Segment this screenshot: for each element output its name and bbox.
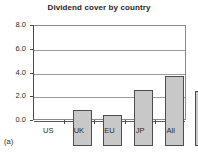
x-tick-label-eu: EU bbox=[94, 126, 125, 135]
plot-area bbox=[33, 25, 186, 120]
y-tick-mark-0.0 bbox=[30, 120, 33, 121]
y-tick-label-6.0: 6.0 bbox=[4, 45, 26, 53]
x-tick-label-all: All bbox=[155, 126, 186, 135]
x-tick-label-jp: JP bbox=[125, 126, 156, 135]
y-tick-mark-4.0 bbox=[30, 73, 33, 74]
y-tick-label-4.0: 4.0 bbox=[4, 69, 26, 77]
x-tick-mark-2 bbox=[94, 120, 95, 124]
y-tick-label-2.0: 2.0 bbox=[4, 92, 26, 100]
bar-jp bbox=[165, 76, 184, 146]
y-tick-mark-8.0 bbox=[30, 25, 33, 26]
bar-eu bbox=[134, 90, 153, 146]
y-tick-label-8.0: 8.0 bbox=[4, 21, 26, 29]
y-tick-mark-2.0 bbox=[30, 96, 33, 97]
x-tick-label-uk: UK bbox=[64, 126, 95, 135]
chart-title: Dividend cover by country bbox=[0, 3, 198, 13]
x-tick-label-us: US bbox=[33, 126, 64, 135]
bar-all bbox=[195, 91, 198, 146]
x-tick-mark-4 bbox=[155, 120, 156, 124]
figure-panel: Dividend cover by country 0.02.04.06.08.… bbox=[0, 0, 198, 155]
y-axis-line bbox=[33, 25, 34, 120]
y-tick-label-0.0: 0.0 bbox=[4, 116, 26, 124]
x-tick-mark-3 bbox=[125, 120, 126, 124]
y-tick-mark-6.0 bbox=[30, 49, 33, 50]
x-tick-mark-1 bbox=[64, 120, 65, 124]
figure-label: (a) bbox=[4, 137, 13, 146]
